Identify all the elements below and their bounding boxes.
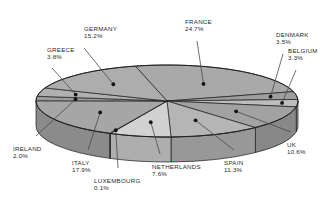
slice-label-ireland-pct: 2.0%: [13, 152, 42, 159]
slice-label-belgium: BELGIUM 3.3%: [288, 47, 318, 62]
leader-dot-italy: [98, 110, 102, 114]
slice-label-france-name: FRANCE: [185, 18, 212, 25]
slice-label-denmark-name: DENMARK: [276, 31, 309, 38]
slice-label-germany-pct: 15.2%: [84, 32, 117, 39]
slice-label-germany-name: GERMANY: [84, 25, 117, 32]
slice-label-uk-name: UK: [287, 141, 296, 148]
slice-label-denmark: DENMARK 3.5%: [276, 31, 309, 46]
leader-dot-netherlands: [149, 120, 153, 124]
slice-label-netherlands: NETHERLANDS 7.6%: [152, 163, 201, 178]
slice-label-ireland-name: IRELAND: [13, 145, 42, 152]
slice-label-italy-pct: 17.9%: [72, 166, 91, 173]
leader-dot-spain: [194, 118, 198, 122]
slice-label-uk-pct: 10.6%: [287, 148, 306, 155]
leader-dot-ireland: [74, 97, 78, 101]
slice-label-spain-pct: 11.3%: [224, 166, 243, 173]
slice-label-greece-name: GREECE: [47, 46, 75, 53]
slice-label-denmark-pct: 3.5%: [276, 38, 309, 45]
leader-dot-luxembourg: [114, 128, 118, 132]
slice-label-belgium-pct: 3.3%: [288, 54, 318, 61]
leader-dot-greece: [74, 93, 78, 97]
leader-dot-germany: [111, 82, 115, 86]
slice-label-netherlands-pct: 7.6%: [152, 170, 201, 177]
pie-chart: GERMANY 15.2% GREECE 3.8% FRANCE 24.7% D…: [0, 0, 332, 200]
slice-label-italy: ITALY 17.9%: [72, 159, 91, 174]
leader-dot-belgium: [280, 101, 284, 105]
pie-body: [36, 65, 298, 162]
slice-label-netherlands-name: NETHERLANDS: [152, 163, 201, 170]
leader-dot-denmark: [269, 95, 273, 99]
slice-label-spain: SPAIN 11.3%: [224, 159, 243, 174]
slice-label-luxembourg: LUXEMBOURG 0.1%: [94, 177, 141, 192]
slice-label-ireland: IRELAND 2.0%: [13, 145, 42, 160]
slice-label-luxembourg-name: LUXEMBOURG: [94, 177, 141, 184]
slice-label-uk: UK 10.6%: [287, 141, 306, 156]
slice-label-france: FRANCE 24.7%: [185, 18, 212, 33]
slice-label-germany: GERMANY 15.2%: [84, 25, 117, 40]
leader-dot-france: [202, 82, 206, 86]
slice-label-luxembourg-pct: 0.1%: [94, 184, 141, 191]
slice-label-france-pct: 24.7%: [185, 25, 212, 32]
slice-label-italy-name: ITALY: [72, 159, 90, 166]
slice-label-spain-name: SPAIN: [224, 159, 243, 166]
slice-label-greece: GREECE 3.8%: [47, 46, 75, 61]
slice-label-greece-pct: 3.8%: [47, 53, 75, 60]
leader-dot-uk: [234, 109, 238, 113]
slice-label-belgium-name: BELGIUM: [288, 47, 318, 54]
